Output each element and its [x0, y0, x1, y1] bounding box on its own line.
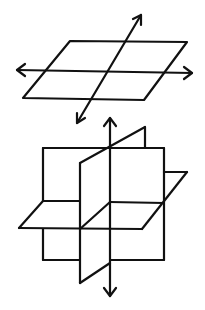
diagonal-arrow [77, 15, 141, 123]
horizontal-plane [19, 172, 187, 229]
figure-canvas [0, 0, 205, 310]
front-square-plane [43, 148, 164, 260]
three-planes-diagram [19, 118, 187, 296]
diagram-svg [0, 0, 205, 310]
top-plane-diagram [17, 15, 192, 123]
